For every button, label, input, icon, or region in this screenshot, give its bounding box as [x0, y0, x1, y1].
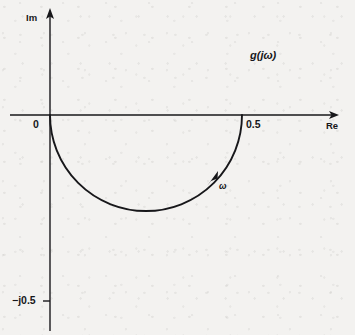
tick-label-imag-neg-half: −j0.5	[12, 295, 36, 306]
nyquist-curve	[50, 115, 242, 211]
nyquist-curve-path	[50, 115, 242, 211]
omega-direction-label: ω	[219, 182, 227, 191]
plot-canvas	[0, 0, 355, 335]
tick-label-origin: 0	[33, 119, 39, 130]
nyquist-plot-figure: Im Re 0 0.5 −j0.5 g(jω) ω	[0, 0, 355, 335]
imaginary-axis	[43, 8, 54, 331]
tick-label-real-half: 0.5	[246, 119, 261, 130]
real-axis	[10, 111, 339, 119]
curve-name-label: g(jω)	[250, 50, 276, 61]
imaginary-axis-label: Im	[26, 13, 37, 23]
real-axis-label: Re	[326, 121, 338, 131]
